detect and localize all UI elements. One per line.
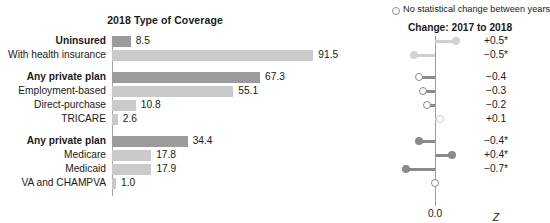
dot-row: −0.7*: [390, 164, 532, 176]
change-value-label: +0.1: [470, 113, 522, 125]
change-value-label: −0.7*: [470, 163, 522, 175]
change-marker: [402, 165, 410, 173]
change-marker: [415, 137, 423, 145]
dot-row: −0.5*: [390, 50, 532, 62]
bar-rect: [112, 100, 136, 111]
change-marker: [419, 87, 427, 95]
bar-row-label: Medicare: [0, 149, 106, 161]
bar-row: Direct-purchase10.8: [0, 100, 390, 112]
dot-row: −0.4*: [390, 136, 532, 148]
bar-rect: [112, 136, 188, 147]
bar-value-label: 2.6: [123, 113, 137, 125]
bar-row: Uninsured8.5: [0, 36, 390, 48]
bar-value-label: 8.5: [136, 35, 150, 47]
change-marker: [448, 151, 456, 159]
dot-row: −0.2: [390, 100, 532, 112]
bar-row-label: Uninsured: [0, 35, 106, 47]
bar-rect: [112, 36, 131, 47]
bar-rect: [112, 114, 118, 125]
bar-row-label: Medicaid: [0, 163, 106, 175]
bar-row: Medicaid17.9: [0, 164, 390, 176]
change-value-label: −0.5*: [470, 49, 522, 61]
bar-value-label: 91.5: [318, 49, 338, 61]
bar-rect: [112, 72, 260, 83]
dot-row: +0.5*: [390, 36, 532, 48]
change-value-label: −0.4*: [470, 135, 522, 147]
bar-row-label: Any private plan: [0, 135, 106, 147]
dot-row: −0.3: [390, 86, 532, 98]
bar-rect: [112, 178, 116, 189]
change-marker: [415, 73, 423, 81]
bar-row: Employment-based55.1: [0, 86, 390, 98]
dot-plot-area: 0.0 Z +0.5*−0.5*−0.4−0.3−0.2+0.1−0.4*+0.…: [390, 36, 532, 213]
bar-rect: [112, 164, 151, 175]
dot-row: +0.1: [390, 114, 532, 126]
bar-row: VA and CHAMPVA1.0: [0, 178, 390, 190]
bar-value-label: 67.3: [265, 71, 285, 83]
open-circle-icon: [392, 7, 400, 15]
bar-value-label: 34.4: [193, 135, 213, 147]
legend-label: No statistical change between years: [403, 3, 550, 16]
dot-row: −0.4: [390, 72, 532, 84]
change-marker: [436, 115, 444, 123]
change-marker: [423, 101, 431, 109]
left-chart-title: 2018 Type of Coverage: [0, 14, 330, 26]
coverage-bar-chart-panel: 2018 Type of Coverage Uninsured8.5With h…: [0, 0, 390, 213]
dot-connector-line: [406, 168, 435, 171]
dot-row: +0.4*: [390, 150, 532, 162]
bar-row: Medicare17.8: [0, 150, 390, 162]
change-value-label: −0.4: [470, 71, 522, 83]
bar-row-label: Any private plan: [0, 71, 106, 83]
dot-row: [390, 178, 532, 190]
bar-value-label: 10.8: [141, 99, 161, 111]
bar-row-label: VA and CHAMPVA: [0, 177, 106, 189]
bar-rect: [112, 50, 313, 61]
change-dot-chart-panel: No statistical change between years Chan…: [390, 0, 532, 213]
bar-row-label: Direct-purchase: [0, 99, 106, 111]
bar-row: Any private plan34.4: [0, 136, 390, 148]
change-marker: [410, 51, 418, 59]
bar-value-label: 55.1: [238, 85, 258, 97]
bar-row: TRICARE2.6: [0, 114, 390, 126]
bar-row: With health insurance91.5: [0, 50, 390, 62]
right-chart-title: Change: 2017 to 2018: [396, 22, 524, 33]
bar-row-label: TRICARE: [0, 113, 106, 125]
bar-plot-area: Uninsured8.5With health insurance91.5Any…: [0, 36, 390, 198]
bar-row-label: Employment-based: [0, 85, 106, 97]
change-marker: [452, 37, 460, 45]
change-marker: [431, 179, 439, 187]
change-value-label: −0.2: [470, 99, 522, 111]
bar-rect: [112, 86, 233, 97]
change-value-label: +0.5*: [470, 35, 522, 47]
bar-value-label: 17.8: [156, 149, 176, 161]
bar-value-label: 1.0: [121, 177, 135, 189]
change-value-label: −0.3: [470, 85, 522, 97]
bar-row-label: With health insurance: [0, 49, 106, 61]
zero-axis-label: 0.0: [410, 208, 460, 219]
bar-row: Any private plan67.3: [0, 72, 390, 84]
change-value-label: +0.4*: [470, 149, 522, 161]
legend: No statistical change between years: [390, 3, 532, 17]
z-statistic-label: Z: [470, 211, 522, 223]
zero-axis-tick: [435, 200, 436, 206]
bar-value-label: 17.9: [156, 163, 176, 175]
bar-rect: [112, 150, 151, 161]
